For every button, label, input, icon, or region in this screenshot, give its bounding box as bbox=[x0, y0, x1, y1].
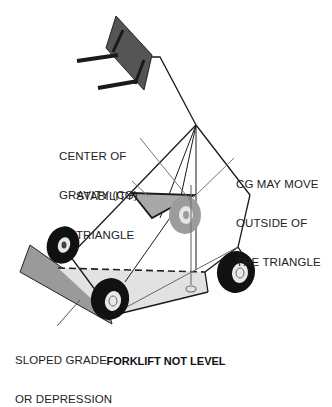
label-stability-triangle: STABILITY TRIANGLE bbox=[76, 164, 134, 255]
fork-tine-lower bbox=[98, 81, 138, 88]
mast-line bbox=[152, 57, 196, 125]
label-sloped-grade: SLOPED GRADE OR DEPRESSION bbox=[15, 328, 112, 407]
label-cg-may-move: CG MAY MOVE OUTSIDE OF THE TRIANGLE bbox=[236, 152, 321, 282]
figure-caption: FORKLIFT NOT LEVEL bbox=[0, 355, 332, 367]
cg-move-leader bbox=[193, 158, 234, 198]
fork-carriage bbox=[106, 16, 152, 90]
cg-leader bbox=[140, 138, 190, 200]
ghost-wheel bbox=[169, 196, 201, 234]
slope-leader bbox=[57, 300, 80, 326]
fork-tine-upper bbox=[77, 55, 118, 61]
